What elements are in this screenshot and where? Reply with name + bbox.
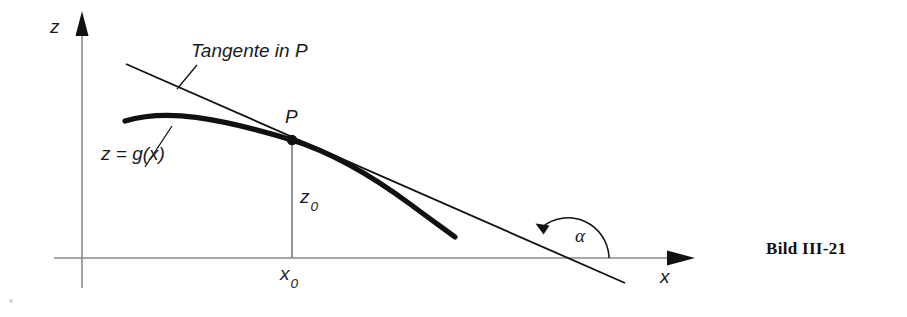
- scan-speck: [9, 299, 13, 303]
- leader-line-tangente: [177, 65, 197, 89]
- value-label-z0-base: z: [300, 186, 310, 207]
- angle-label-alpha: α: [575, 225, 585, 247]
- value-label-x0: x0: [280, 263, 297, 288]
- function-curve: [125, 115, 455, 237]
- point-p-marker: [287, 135, 297, 145]
- value-label-z0-subscript: 0: [311, 199, 319, 214]
- function-label: z = g(x): [101, 143, 165, 165]
- angle-alpha-arc: [536, 218, 610, 258]
- tangent-line: [126, 64, 625, 283]
- figure-canvas: z x Tangente in P z = g(x) P α z0 x0 Bil…: [0, 0, 907, 317]
- point-label-p: P: [285, 106, 298, 128]
- value-label-z0: z0: [300, 186, 317, 211]
- tangent-label: Tangente in P: [191, 40, 308, 62]
- value-label-x0-subscript: 0: [291, 276, 299, 291]
- axis-label-z: z: [50, 16, 60, 38]
- value-label-x0-base: x: [280, 263, 290, 284]
- x-axis-arrow-icon: [667, 251, 695, 266]
- axis-label-x: x: [660, 266, 670, 288]
- z-axis-arrow-icon: [76, 11, 89, 36]
- figure-caption: Bild III-21: [766, 239, 846, 259]
